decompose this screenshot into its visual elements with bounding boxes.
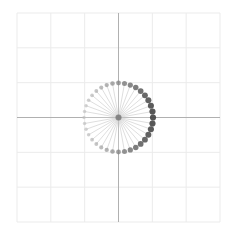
data-point <box>90 138 94 142</box>
data-point <box>122 149 127 154</box>
data-point <box>116 150 121 155</box>
data-point <box>116 81 121 86</box>
data-point <box>142 92 148 98</box>
data-point <box>128 82 133 87</box>
origin-marker <box>116 115 122 121</box>
data-point <box>138 141 144 147</box>
data-point <box>90 93 94 97</box>
data-point <box>105 148 109 152</box>
data-point <box>145 97 151 103</box>
data-point <box>105 83 109 87</box>
data-point <box>84 128 87 131</box>
data-point <box>83 122 86 125</box>
data-point <box>142 137 148 143</box>
data-point <box>87 133 91 137</box>
data-point <box>99 86 103 90</box>
data-point <box>94 89 98 93</box>
data-point <box>150 114 156 120</box>
data-point <box>148 126 154 132</box>
data-point <box>149 108 155 114</box>
data-point <box>133 85 139 91</box>
data-point <box>148 103 154 109</box>
data-point <box>110 149 115 154</box>
data-point <box>122 81 127 86</box>
data-point <box>145 132 151 138</box>
radial-scatter-chart <box>0 0 234 232</box>
data-point <box>110 81 115 86</box>
data-point <box>128 147 133 152</box>
data-point <box>87 98 91 102</box>
data-point <box>149 120 155 126</box>
data-point <box>82 116 85 119</box>
data-point <box>133 145 139 151</box>
data-point <box>99 145 103 149</box>
data-point <box>94 142 98 146</box>
data-point <box>84 104 87 107</box>
data-point <box>83 110 86 113</box>
data-point <box>138 88 144 94</box>
